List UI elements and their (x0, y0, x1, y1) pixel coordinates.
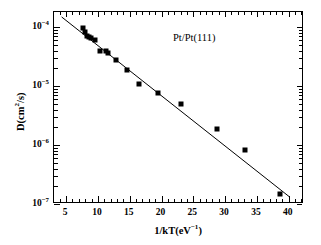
x-axis-minor-tick (181, 12, 182, 15)
x-axis-tick-label: 10 (92, 208, 102, 218)
x-axis-minor-tick (212, 199, 213, 203)
y-axis-minor-tick (54, 89, 58, 90)
x-axis-tick-label: 40 (283, 208, 293, 218)
x-axis-minor-tick (276, 12, 277, 15)
y-axis-minor-tick (54, 163, 58, 164)
x-axis-minor-tick (117, 12, 118, 15)
x-axis-minor-tick (149, 12, 150, 15)
x-axis-minor-tick (142, 199, 143, 203)
x-axis-minor-tick (200, 199, 201, 203)
x-axis-minor-tick (149, 199, 150, 203)
y-axis-minor-tick (54, 30, 58, 31)
y-axis-minor-tick (299, 117, 302, 118)
x-axis-minor-tick (136, 12, 137, 15)
x-axis-major-tick (130, 196, 131, 202)
data-point-marker (178, 102, 183, 107)
y-axis-minor-tick (299, 92, 302, 93)
x-axis-minor-tick (104, 199, 105, 203)
x-axis-minor-tick (270, 12, 271, 15)
x-axis-tick-label: 20 (156, 208, 166, 218)
y-axis-major-tick (54, 204, 60, 205)
x-axis-minor-tick (168, 12, 169, 15)
y-axis-minor-tick (54, 127, 58, 128)
y-axis-minor-tick (54, 148, 58, 149)
y-axis-major-tick (54, 86, 60, 87)
y-axis-minor-tick (54, 40, 58, 41)
figure-arrhenius-plot: 1/kT(eV−1) D(cm2/s) Pt/Pt(111) 510152025… (0, 0, 321, 245)
x-axis-minor-tick (295, 12, 296, 15)
x-axis-tick-label: 5 (63, 208, 68, 218)
x-axis-minor-tick (301, 199, 302, 203)
x-axis-major-tick (225, 196, 226, 202)
x-axis-minor-tick (60, 12, 61, 15)
x-axis-minor-tick (282, 12, 283, 15)
x-axis-minor-tick (136, 199, 137, 203)
y-axis-minor-tick (299, 30, 302, 31)
y-axis-minor-tick (54, 110, 58, 111)
x-axis-major-tick (98, 196, 99, 202)
x-axis-major-tick (257, 196, 258, 202)
y-axis-major-tick (54, 145, 60, 146)
x-axis-minor-tick (238, 12, 239, 15)
x-axis-minor-tick (60, 199, 61, 203)
y-axis-major-tick (297, 145, 302, 146)
data-point-marker (278, 192, 283, 197)
y-axis-minor-tick (299, 163, 302, 164)
x-axis-minor-tick (187, 199, 188, 203)
x-axis-major-tick (162, 12, 163, 17)
x-axis-tick-label: 25 (188, 208, 198, 218)
y-axis-minor-tick (299, 40, 302, 41)
data-point-marker (136, 81, 141, 86)
x-axis-minor-tick (168, 199, 169, 203)
x-axis-minor-tick (231, 12, 232, 15)
x-axis-minor-tick (263, 12, 264, 15)
data-point-marker (92, 37, 97, 42)
x-axis-major-tick (289, 196, 290, 202)
x-axis-minor-tick (79, 12, 80, 15)
data-point-marker (243, 147, 248, 152)
x-axis-major-tick (66, 12, 67, 17)
x-axis-minor-tick (111, 12, 112, 15)
x-axis-minor-tick (238, 199, 239, 203)
y-axis-minor-tick (54, 186, 58, 187)
y-axis-minor-tick (299, 151, 302, 152)
x-axis-minor-tick (282, 199, 283, 203)
y-axis-minor-tick (54, 176, 58, 177)
data-point-marker (124, 67, 129, 72)
y-axis-minor-tick (54, 92, 58, 93)
y-axis-minor-tick (299, 154, 302, 155)
data-point-marker (114, 57, 119, 62)
x-axis-minor-tick (212, 12, 213, 15)
x-axis-minor-tick (206, 12, 207, 15)
x-axis-major-tick (66, 196, 67, 202)
x-axis-minor-tick (181, 199, 182, 203)
y-axis-minor-tick (54, 36, 58, 37)
y-axis-minor-tick (299, 104, 302, 105)
y-axis-major-tick (297, 27, 302, 28)
y-axis-minor-tick (54, 51, 58, 52)
x-axis-tick-label: 30 (219, 208, 229, 218)
y-axis-minor-tick (299, 51, 302, 52)
y-axis-minor-tick (299, 148, 302, 149)
y-axis-tick-label: 10−4 (16, 20, 49, 32)
y-axis-minor-tick (54, 68, 58, 69)
x-axis-minor-tick (92, 199, 93, 203)
x-axis-minor-tick (244, 12, 245, 15)
x-axis-minor-tick (276, 199, 277, 203)
x-axis-minor-tick (263, 199, 264, 203)
x-axis-minor-tick (72, 199, 73, 203)
x-axis-minor-tick (104, 12, 105, 15)
x-axis-minor-tick (111, 199, 112, 203)
x-axis-minor-tick (251, 12, 252, 15)
x-axis-major-tick (257, 12, 258, 17)
plot-annotation-label: Pt/Pt(111) (173, 33, 215, 44)
y-axis-minor-tick (54, 158, 58, 159)
x-axis-major-tick (289, 12, 290, 17)
x-axis-minor-tick (79, 199, 80, 203)
x-axis-minor-tick (295, 199, 296, 203)
x-axis-minor-tick (142, 12, 143, 15)
y-axis-minor-tick (54, 58, 58, 59)
x-axis-minor-tick (219, 12, 220, 15)
x-axis-minor-tick (206, 199, 207, 203)
y-axis-minor-tick (299, 36, 302, 37)
